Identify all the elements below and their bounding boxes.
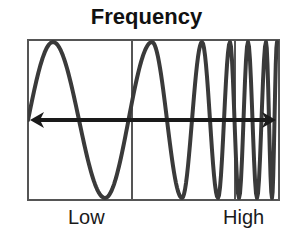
frequency-wave-diagram — [0, 0, 293, 237]
high-label: High — [223, 206, 264, 229]
double-headed-arrow — [30, 112, 276, 128]
low-label: Low — [68, 206, 105, 229]
